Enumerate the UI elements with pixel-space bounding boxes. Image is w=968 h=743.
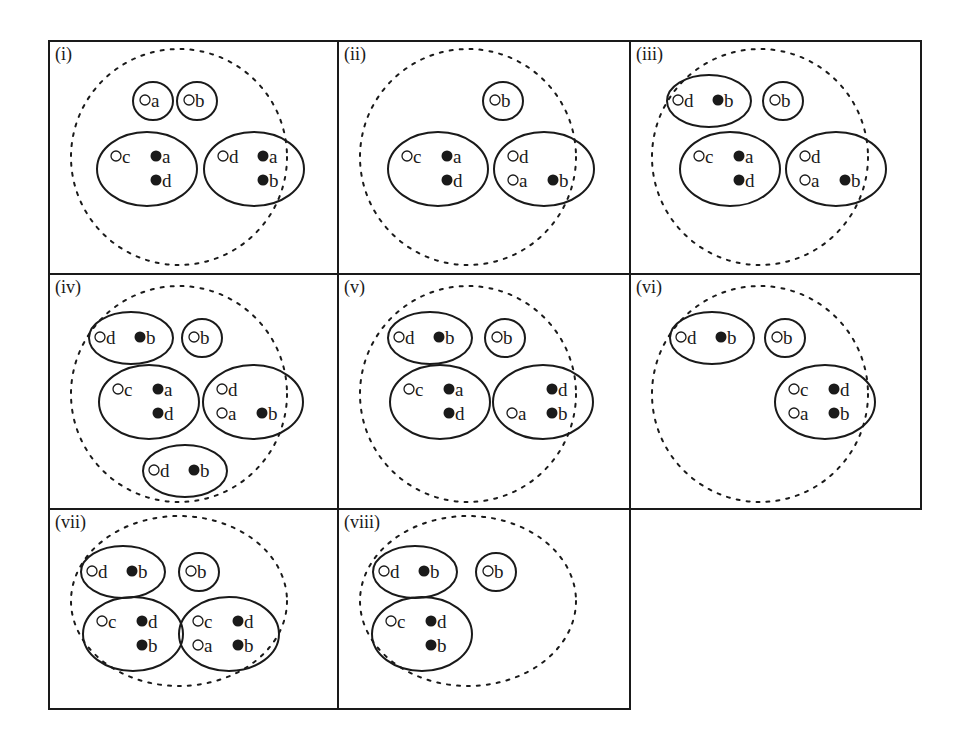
filled-element: d — [137, 611, 159, 632]
element-letter: c — [415, 379, 423, 400]
open-element: d — [217, 379, 238, 400]
set-group: dab — [786, 132, 886, 206]
panel-2: (ii)bcaddab — [344, 44, 594, 265]
element-letter: b — [724, 90, 734, 111]
panel-frame — [338, 509, 630, 709]
element-letter: a — [164, 379, 173, 400]
set-group: cad — [97, 132, 197, 206]
open-circle-icon — [772, 332, 782, 342]
filled-element: a — [153, 379, 174, 400]
element-letter: d — [162, 170, 172, 191]
open-element: d — [673, 90, 694, 111]
set-ellipse — [670, 312, 754, 364]
set-ellipse — [786, 132, 886, 206]
element-letter: d — [228, 379, 238, 400]
universe-dashed-ellipse — [652, 49, 868, 265]
filled-element: b — [127, 561, 148, 582]
filled-element: b — [258, 170, 279, 191]
filled-circle-icon — [135, 332, 146, 343]
set-group: dab — [203, 365, 303, 439]
filled-element: d — [442, 170, 464, 191]
element-letter: b — [200, 327, 210, 348]
filled-circle-icon — [434, 332, 445, 343]
set-ellipse — [390, 365, 490, 439]
set-group: cad — [390, 365, 490, 439]
element-letter: c — [413, 146, 421, 167]
filled-circle-icon — [137, 640, 148, 651]
panel-7: (vii)dbbcdbcdab — [55, 512, 287, 686]
open-element: c — [111, 146, 130, 167]
element-letter: b — [138, 561, 148, 582]
open-element: c — [402, 146, 421, 167]
open-element: a — [789, 403, 809, 424]
set-group: db — [81, 546, 165, 598]
set-group: a — [133, 82, 173, 120]
element-letter: d — [558, 379, 568, 400]
element-letter: b — [268, 403, 278, 424]
filled-circle-icon — [713, 95, 724, 106]
set-ellipse — [204, 132, 304, 206]
set-group: b — [765, 319, 805, 357]
open-circle-icon — [789, 384, 799, 394]
open-element: b — [490, 90, 511, 111]
open-circle-icon — [193, 640, 203, 650]
set-group: b — [483, 82, 523, 120]
panel-label: (iii) — [636, 44, 663, 65]
set-group: cdab — [775, 365, 875, 439]
open-circle-icon — [149, 465, 159, 475]
filled-circle-icon — [419, 566, 430, 577]
open-circle-icon — [386, 616, 396, 626]
set-ellipse — [372, 597, 472, 671]
filled-circle-icon — [444, 384, 455, 395]
filled-element: d — [547, 379, 569, 400]
set-ellipse — [388, 132, 488, 206]
element-letter: c — [122, 146, 130, 167]
filled-circle-icon — [151, 151, 162, 162]
open-element: a — [508, 170, 528, 191]
set-group: b — [177, 82, 217, 120]
open-circle-icon — [186, 566, 196, 576]
filled-circle-icon — [233, 640, 244, 651]
filled-circle-icon — [153, 408, 164, 419]
set-group: b — [179, 553, 219, 591]
open-element: d — [379, 561, 400, 582]
open-element: a — [800, 170, 820, 191]
filled-circle-icon — [442, 151, 453, 162]
element-letter: c — [397, 611, 405, 632]
element-letter: a — [518, 403, 527, 424]
element-letter: a — [455, 379, 464, 400]
universe-dashed-ellipse — [360, 286, 576, 502]
element-letter: d — [840, 379, 850, 400]
element-letter: d — [148, 611, 158, 632]
open-circle-icon — [97, 616, 107, 626]
universe-dashed-ellipse — [360, 516, 576, 686]
filled-element: d — [151, 170, 173, 191]
filled-circle-icon — [444, 408, 455, 419]
element-letter: d — [244, 611, 254, 632]
panel-label: (iv) — [55, 277, 81, 298]
filled-element: b — [547, 403, 568, 424]
filled-circle-icon — [127, 566, 138, 577]
element-letter: b — [558, 403, 568, 424]
element-letter: d — [811, 146, 821, 167]
element-letter: a — [228, 403, 237, 424]
open-element: d — [87, 561, 108, 582]
filled-element: d — [444, 403, 466, 424]
filled-circle-icon — [151, 175, 162, 186]
set-group: cad — [388, 132, 488, 206]
open-element: a — [193, 635, 213, 656]
filled-element: b — [548, 170, 569, 191]
element-letter: b — [195, 90, 205, 111]
filled-circle-icon — [137, 616, 148, 627]
set-group: cdb — [372, 597, 472, 671]
element-letter: b — [559, 170, 569, 191]
set-ellipse — [81, 546, 165, 598]
filled-element: d — [426, 611, 448, 632]
open-circle-icon — [111, 151, 121, 161]
filled-circle-icon — [426, 616, 437, 627]
open-circle-icon — [508, 175, 518, 185]
set-group: cdb — [83, 597, 183, 671]
open-element: a — [217, 403, 237, 424]
set-ellipse — [179, 597, 279, 671]
set-group: b — [763, 82, 803, 120]
